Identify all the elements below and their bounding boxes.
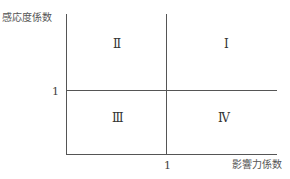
x-axis-line bbox=[66, 154, 277, 155]
quadrant-iii-label: Ⅲ bbox=[112, 112, 124, 124]
horizontal-threshold-line bbox=[66, 90, 277, 91]
vertical-threshold-line bbox=[166, 14, 167, 155]
x-axis-title: 影響力係数 bbox=[232, 160, 282, 170]
quadrant-ii-label: Ⅱ bbox=[113, 38, 121, 50]
y-axis-title: 感応度係数 bbox=[2, 13, 52, 23]
x-threshold-label: 1 bbox=[164, 160, 171, 171]
quadrant-i-label: Ⅰ bbox=[224, 38, 229, 50]
quadrant-iv-label: Ⅳ bbox=[218, 112, 230, 124]
y-axis-line bbox=[66, 14, 67, 155]
y-threshold-label: 1 bbox=[52, 86, 59, 97]
